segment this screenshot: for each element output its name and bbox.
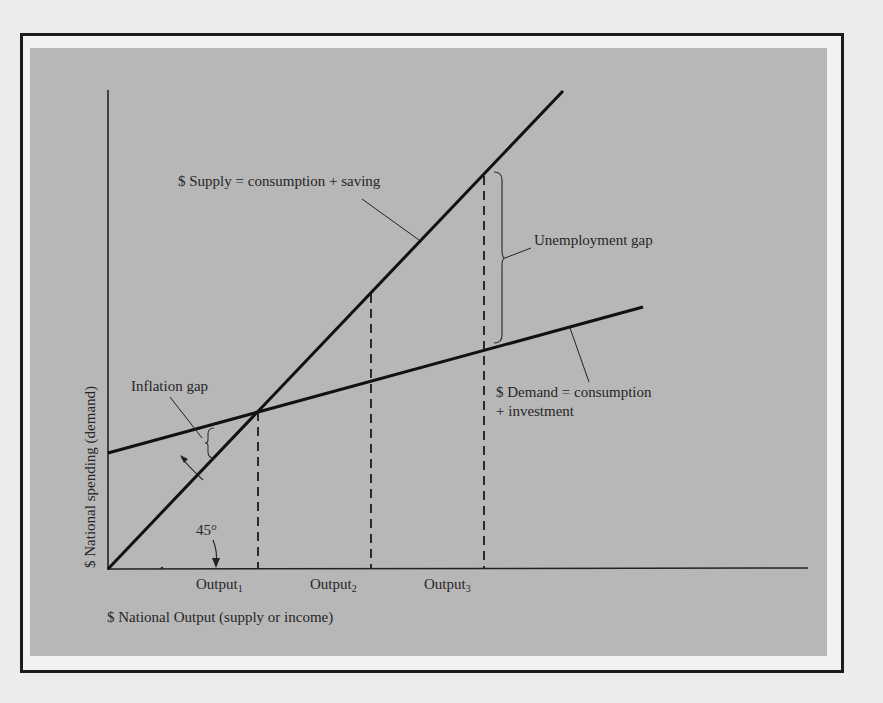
unemployment-leader (505, 248, 531, 258)
inflation-gap-label: Inflation gap (131, 378, 208, 395)
angle-label: 45° (196, 522, 217, 539)
x-tick-output3: Output3 (424, 576, 471, 597)
x-tick-output1-text: Output (196, 576, 238, 592)
demand-leader (570, 328, 589, 382)
arrowhead-lower (212, 558, 220, 568)
x-tick-output2: Output2 (310, 576, 357, 597)
x-tick-output3-sub: 3 (466, 583, 471, 594)
demand-line-label-2: + investment (496, 403, 574, 420)
x-axis (108, 568, 808, 569)
arrowhead-upper (180, 455, 188, 463)
x-tick-output1-sub: 1 (238, 583, 243, 594)
diagram-canvas (0, 0, 883, 703)
x-tick-output2-sub: 2 (352, 583, 357, 594)
inflation-gap-brace (205, 428, 214, 458)
x-axis-label: $ National Output (supply or income) (107, 609, 333, 626)
x-tick-output2-text: Output (310, 576, 352, 592)
unemployment-gap-brace (494, 172, 505, 343)
x-tick-output3-text: Output (424, 576, 466, 592)
y-axis-label: $ National spending (demand) (82, 386, 99, 568)
demand-line-label-1: $ Demand = consumption (496, 384, 652, 401)
unemployment-gap-label: Unemployment gap (534, 232, 653, 249)
supply-line (108, 91, 563, 569)
supply-line-label: $ Supply = consumption + saving (178, 173, 380, 190)
supply-leader (362, 199, 419, 240)
x-tick-output1: Output1 (196, 576, 243, 597)
